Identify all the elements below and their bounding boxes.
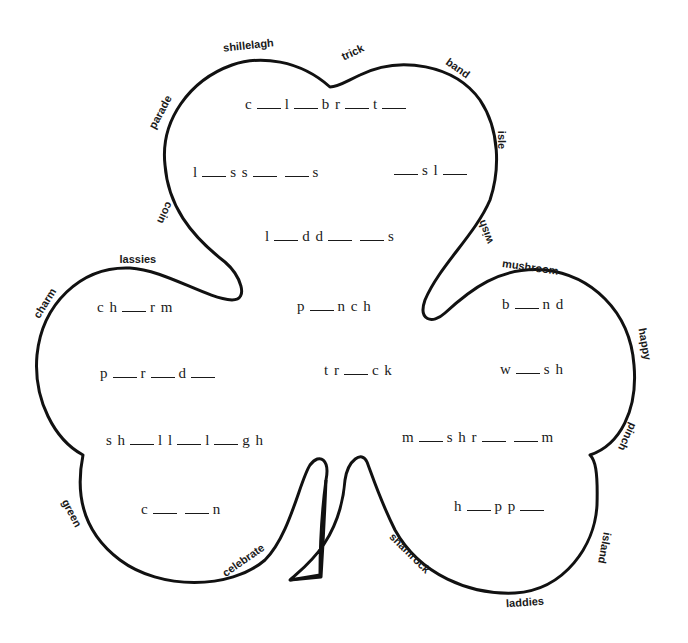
given-letters: l	[193, 164, 198, 180]
given-letters: h	[454, 498, 463, 514]
letter-blank[interactable]	[344, 364, 368, 375]
given-letters: d d	[302, 228, 324, 244]
puzzle-word-laddies: ld ds	[265, 227, 395, 245]
given-letters: n	[213, 501, 222, 517]
letter-blank[interactable]	[467, 500, 491, 511]
given-letters: l	[205, 432, 210, 448]
letter-blank[interactable]	[253, 166, 277, 177]
letter-blank[interactable]	[191, 367, 215, 378]
letter-blank[interactable]	[360, 230, 384, 241]
letter-blank[interactable]	[419, 431, 443, 442]
given-letters: r m	[150, 299, 173, 315]
given-letters: s h	[544, 361, 564, 377]
letter-blank[interactable]	[202, 166, 226, 177]
given-letters: c	[245, 96, 253, 112]
given-letters: n d	[543, 296, 565, 312]
given-letters: d	[179, 365, 188, 381]
letter-blank[interactable]	[394, 164, 418, 175]
border-word-isle: isle	[496, 131, 508, 149]
given-letters: p	[297, 298, 306, 314]
puzzle-word-coin: cn	[141, 500, 221, 518]
puzzle-word-pinch: pn c h	[297, 297, 372, 315]
puzzle-word-lassies: ls ss	[193, 163, 319, 181]
letter-blank[interactable]	[122, 301, 146, 312]
puzzle-word-isle: s l	[390, 161, 471, 179]
letter-blank[interactable]	[516, 363, 540, 374]
given-letters: c h	[97, 299, 118, 315]
letter-blank[interactable]	[382, 98, 406, 109]
letter-blank[interactable]	[328, 230, 352, 241]
puzzle-word-trick: t rc k	[324, 361, 393, 379]
given-letters: s h	[106, 432, 126, 448]
given-letters: m	[402, 429, 415, 445]
given-letters: b r	[322, 96, 341, 112]
letter-blank[interactable]	[214, 434, 238, 445]
letter-blank[interactable]	[130, 434, 154, 445]
letter-blank[interactable]	[177, 434, 201, 445]
letter-blank[interactable]	[151, 367, 175, 378]
given-letters: b	[502, 296, 511, 312]
letter-blank[interactable]	[113, 367, 137, 378]
given-letters: t r	[324, 362, 340, 378]
letter-blank[interactable]	[345, 98, 369, 109]
given-letters: p	[100, 365, 109, 381]
border-word-lassies: lassies	[120, 253, 157, 265]
puzzle-word-happy: hp p	[454, 497, 548, 515]
given-letters: l	[285, 96, 290, 112]
letter-blank[interactable]	[285, 166, 309, 177]
given-letters: t	[373, 96, 378, 112]
letter-blank[interactable]	[185, 503, 209, 514]
letter-blank[interactable]	[257, 98, 281, 109]
given-letters: r	[141, 365, 147, 381]
given-letters: p p	[495, 498, 517, 514]
given-letters: s s	[230, 164, 248, 180]
letter-blank[interactable]	[514, 431, 538, 442]
puzzle-word-charm: c hr m	[97, 298, 173, 316]
given-letters: c	[141, 501, 149, 517]
given-letters: n c h	[338, 298, 372, 314]
given-letters: w	[500, 361, 512, 377]
given-letters: s l	[422, 162, 439, 178]
letter-blank[interactable]	[520, 500, 544, 511]
given-letters: m	[542, 429, 555, 445]
shamrock-worksheet: clb rtls sss lld dsc hr mpn c hbn dprdt …	[0, 0, 688, 643]
given-letters: s	[388, 228, 395, 244]
letter-blank[interactable]	[310, 300, 334, 311]
letter-blank[interactable]	[515, 298, 539, 309]
letter-blank[interactable]	[443, 164, 467, 175]
letter-blank[interactable]	[274, 230, 298, 241]
letter-blank[interactable]	[294, 98, 318, 109]
given-letters: c k	[372, 362, 393, 378]
puzzle-word-wish: ws h	[500, 360, 564, 378]
given-letters: l	[265, 228, 270, 244]
given-letters: s h r	[447, 429, 478, 445]
puzzle-word-band: bn d	[502, 295, 564, 313]
given-letters: s	[313, 164, 320, 180]
letter-blank[interactable]	[153, 503, 177, 514]
puzzle-word-mushroom: ms h rm	[402, 428, 554, 446]
puzzle-word-shillelagh: s hl llg h	[106, 431, 264, 449]
letter-blank[interactable]	[482, 431, 506, 442]
given-letters: g h	[242, 432, 264, 448]
puzzle-word-parade: prd	[100, 364, 219, 382]
given-letters: l l	[158, 432, 173, 448]
puzzle-word-celebrate: clb rt	[245, 95, 410, 113]
